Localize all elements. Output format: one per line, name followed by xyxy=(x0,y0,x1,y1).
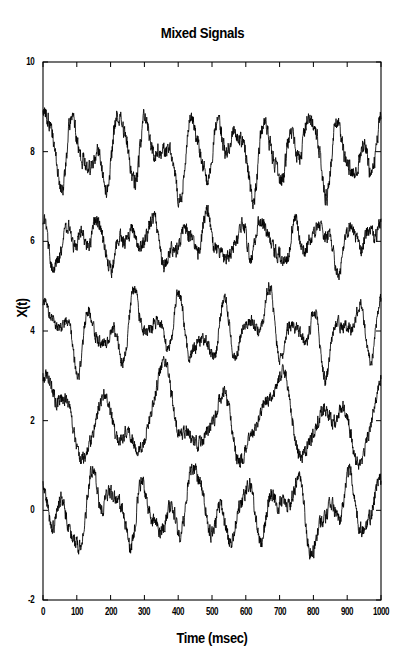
x-tick-label: 0 xyxy=(27,606,59,617)
figure-canvas: Mixed Signals X(t) Time (msec) 010020030… xyxy=(0,0,405,670)
y-tick-label: 4 xyxy=(12,325,34,336)
x-tick-label: 200 xyxy=(95,606,127,617)
x-tick-label: 400 xyxy=(162,606,194,617)
x-tick-label: 500 xyxy=(196,606,228,617)
signal-trace-1 xyxy=(43,108,381,209)
y-tick-label: -2 xyxy=(12,594,34,605)
x-axis-label: Time (msec) xyxy=(57,630,368,646)
signal-trace-4 xyxy=(43,356,381,469)
y-tick-label: 2 xyxy=(12,415,34,426)
x-tick-label: 900 xyxy=(331,606,363,617)
y-tick-label: 8 xyxy=(12,146,34,157)
x-tick-label: 100 xyxy=(61,606,93,617)
signal-trace-5 xyxy=(43,464,381,560)
x-tick-label: 1000 xyxy=(365,606,397,617)
x-tick-label: 600 xyxy=(230,606,262,617)
signal-trace-2 xyxy=(43,205,381,280)
x-tick-label: 800 xyxy=(297,606,329,617)
axes-frame xyxy=(43,62,381,600)
x-tick-label: 700 xyxy=(264,606,296,617)
y-tick-label: 6 xyxy=(12,235,34,246)
signal-trace-3 xyxy=(43,282,381,385)
x-tick-label: 300 xyxy=(128,606,160,617)
y-tick-label: 10 xyxy=(12,56,34,67)
plot-area xyxy=(0,0,405,670)
y-tick-label: 0 xyxy=(12,504,34,515)
